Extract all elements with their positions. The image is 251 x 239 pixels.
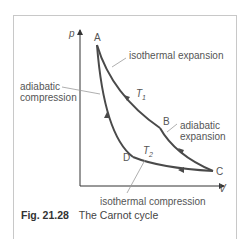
- label-isothermal-compression: isothermal compression: [100, 196, 206, 207]
- point-B: B: [163, 116, 170, 127]
- label-adiabatic-compression-line1: adiabatic: [20, 81, 77, 92]
- label-adiabatic-expansion-line1: adiabatic: [180, 120, 226, 131]
- x-axis-label: V: [219, 183, 226, 194]
- leader-isothermal-expansion: [112, 58, 126, 67]
- temperature-T1: T1: [136, 88, 146, 101]
- label-isothermal-expansion: isothermal expansion: [129, 50, 224, 61]
- label-adiabatic-expansion: adiabatic expansion: [180, 120, 226, 142]
- label-adiabatic-compression-line2: compression: [20, 92, 77, 103]
- figure-title: The Carnot cycle: [79, 209, 158, 221]
- temperature-T2: T2: [143, 145, 153, 158]
- isotherm-CD: [133, 157, 213, 171]
- t2-subscript: 2: [149, 151, 153, 158]
- point-A: A: [94, 32, 101, 43]
- label-adiabatic-compression: adiabatic compression: [20, 81, 77, 103]
- label-adiabatic-expansion-line2: expansion: [180, 131, 226, 142]
- t1-subscript: 1: [142, 94, 146, 101]
- figure-number: Fig. 21.28: [21, 209, 69, 221]
- point-D: D: [123, 152, 130, 163]
- leader-isothermal-compression: [127, 160, 145, 193]
- point-C: C: [216, 166, 223, 177]
- figure-caption: Fig. 21.28The Carnot cycle: [21, 209, 158, 221]
- y-axis-label: p: [69, 28, 75, 39]
